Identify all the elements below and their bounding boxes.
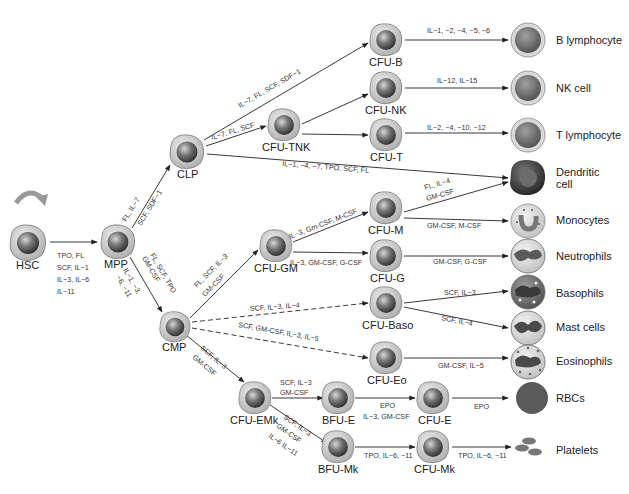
label-monocytes: Monocytes: [556, 214, 610, 226]
cyt-cmp-cfu-eo: SCF, GM-CSF, IL−3, IL−5: [238, 320, 320, 343]
label-cfu-eo: CFU-Eo: [367, 374, 407, 386]
node-cfu-mk: [417, 431, 449, 463]
node-bfu-mk: [322, 431, 354, 463]
cell-platelets-icon: [515, 438, 542, 456]
node-cfu-m: [370, 192, 402, 224]
cyt-hsc-mpp-4: IL−11: [57, 287, 75, 296]
cyt-cfu-gm-cfu-m: IL−3, Gm-CSF, M-CSF: [287, 206, 358, 241]
cell-basophil-icon: [511, 275, 545, 309]
label-cfu-g: CFU-G: [370, 272, 405, 284]
cyt-bfu-mk-cfu-mk: TPO, IL−6, −11: [364, 451, 413, 460]
node-cfu-eo: [370, 342, 402, 374]
cyt-cfu-emk-bfu-e-2: GM-CSF: [280, 388, 309, 397]
cyt-clp-dendritic: IL−1, −4, −7, TPO, SCF, FL: [282, 159, 370, 175]
label-cfu-mk: CFU-Mk: [414, 463, 455, 475]
node-mpp: [101, 225, 135, 259]
cyt-cfu-emk-bfu-e-1: SCF, IL−3: [280, 378, 312, 387]
cyt-cfu-mk-plt: TPO, IL−6, −11: [458, 451, 507, 460]
cyt-bfu-e-cfu-e-1: EPO: [380, 401, 396, 410]
node-cfu-tnk: [268, 109, 300, 141]
label-cfu-e: CFU-E: [418, 414, 452, 426]
node-cfu-b: [370, 24, 402, 56]
label-cfu-tnk: CFU-TNK: [262, 141, 311, 153]
node-hsc: [10, 225, 46, 261]
cell-dendritic-icon: [510, 160, 545, 195]
hematopoiesis-diagram: HSC MPP CLP CMP CFU-B CFU-NK CFU-TNK CFU…: [0, 0, 629, 494]
cyt-hsc-mpp-2: SCF, IL−1: [57, 263, 89, 272]
label-bfu-e: BFU-E: [322, 414, 355, 426]
node-cfu-baso: [370, 287, 402, 319]
label-b-lymphocyte: B lymphocyte: [556, 34, 622, 46]
label-cfu-m: CFU-M: [368, 224, 403, 236]
cyt-hsc-mpp-1: TPO, FL: [57, 251, 84, 260]
node-cfu-nk: [370, 72, 402, 104]
node-cfu-emk: [239, 382, 271, 414]
cell-neutrophil-icon: [511, 239, 545, 273]
node-cfu-e: [417, 382, 449, 414]
cell-nk-icon: [511, 71, 545, 105]
label-nk-cell: NK cell: [556, 82, 591, 94]
node-cmp: [160, 312, 190, 342]
label-eosinophils: Eosinophils: [556, 355, 613, 367]
node-cfu-g: [370, 240, 402, 272]
label-dendritic-1: Dendritic: [556, 166, 600, 178]
label-neutrophils: Neutrophils: [556, 250, 612, 262]
node-bfu-e: [322, 382, 354, 414]
cell-t-lymphocyte-icon: [511, 118, 545, 152]
cyt-cfu-g-neut: GM-CSF, G-CSF: [433, 257, 488, 266]
node-clp: [170, 135, 204, 169]
label-rbcs: RBCs: [556, 392, 585, 404]
label-hsc: HSC: [16, 259, 39, 271]
cell-rbc-icon: [516, 382, 548, 414]
cyt-cfu-eo-eo: GM-CSF, IL−5: [438, 361, 484, 370]
label-basophils: Basophils: [556, 287, 604, 299]
cyt-cfu-gm-cfu-g: IL−3, GM-CSF, G-CSF: [290, 258, 363, 267]
cyt-bfu-e-cfu-e-2: IL−3, GM-CSF: [363, 412, 410, 421]
cyt-cfu-baso-baso: SCF, IL−3: [444, 288, 476, 297]
cell-monocyte-icon: [511, 204, 545, 238]
cyt-hsc-mpp-3: IL−3, IL−6: [57, 275, 89, 284]
node-cfu-t: [370, 119, 402, 151]
cyt-cfu-b-b: IL−1, −2, −4, −5, −6: [427, 26, 490, 35]
cell-mast-icon: [511, 311, 545, 345]
label-dendritic-2: cell: [556, 178, 573, 190]
cell-eosinophil-icon: [511, 345, 545, 379]
cyt-cfu-m-mono: GM-CSF, M-CSF: [427, 221, 482, 230]
label-cfu-emk: CFU-EMk: [230, 414, 279, 426]
label-cfu-b: CFU-B: [369, 56, 403, 68]
label-cmp: CMP: [162, 341, 186, 353]
label-mast-cells: Mast cells: [556, 321, 605, 333]
label-platelets: Platelets: [556, 444, 599, 456]
cyt-mpp-clp-2: SCF, SDF−1: [135, 188, 164, 227]
cyt-cfu-e-rbc: EPO: [474, 402, 490, 411]
label-cfu-nk: CFU-NK: [365, 104, 407, 116]
cyt-cfu-t-t: IL−2, −4, −10, −12: [427, 123, 486, 132]
label-t-lymphocyte: T lymphocyte: [556, 129, 621, 141]
cell-b-lymphocyte-icon: [511, 23, 545, 57]
label-bfu-mk: BFU-Mk: [318, 463, 359, 475]
label-cfu-t: CFU-T: [370, 151, 403, 163]
label-clp: CLP: [177, 168, 198, 180]
node-cfu-gm: [260, 230, 292, 262]
label-cfu-baso: CFU-Baso: [362, 319, 413, 331]
cyt-cfu-nk-nk: IL−12, IL−15: [437, 76, 477, 85]
cyt-cfu-baso-mast: SCF, IL−4: [441, 313, 474, 328]
